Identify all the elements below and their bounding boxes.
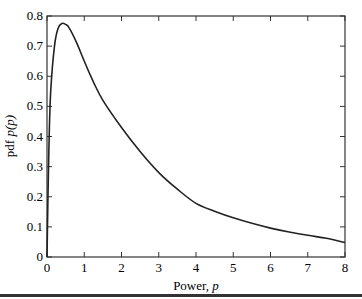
y-tick-labels: 00.10.20.30.40.50.60.70.8 — [27, 8, 44, 264]
x-tick-label: 2 — [118, 260, 125, 275]
y-tick-label: 0 — [37, 249, 44, 264]
y-tick-label: 0.2 — [27, 189, 43, 204]
y-tick-label: 0.6 — [27, 68, 44, 83]
y-tick-label: 0.7 — [27, 38, 44, 53]
y-tick-label: 0.3 — [27, 159, 43, 174]
x-tick-label: 4 — [193, 260, 200, 275]
y-tick-label: 0.4 — [27, 129, 44, 144]
axis-ticks — [47, 16, 345, 257]
pdf-chart: 012345678 00.10.20.30.40.50.60.70.8 Powe… — [0, 0, 362, 299]
plot-frame — [47, 16, 345, 257]
bottom-divider — [0, 294, 362, 297]
x-tick-label: 7 — [305, 260, 312, 275]
x-tick-label: 3 — [156, 260, 163, 275]
x-tick-label: 8 — [342, 260, 349, 275]
x-tick-label: 1 — [81, 260, 88, 275]
x-tick-label: 5 — [230, 260, 237, 275]
y-axis-label: pdf p(p) — [2, 115, 17, 157]
pdf-curve — [47, 23, 345, 257]
y-tick-label: 0.1 — [27, 219, 43, 234]
y-tick-label: 0.8 — [27, 8, 43, 23]
x-tick-label: 0 — [44, 260, 51, 275]
x-tick-labels: 012345678 — [44, 260, 349, 275]
x-tick-label: 6 — [267, 260, 274, 275]
y-tick-label: 0.5 — [27, 98, 43, 113]
x-axis-label: Power, p — [173, 278, 219, 293]
